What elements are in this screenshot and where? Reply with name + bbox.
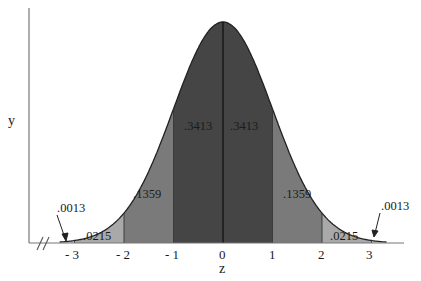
tick-label-3: 3 — [366, 247, 373, 262]
arrow-icon-left — [57, 215, 68, 241]
y-axis-label: y — [8, 113, 15, 128]
area-label-left-tail: .0013 — [57, 201, 85, 215]
area-label-m1-0: .3413 — [184, 119, 212, 133]
area-label-0-1: .3413 — [230, 119, 258, 133]
tick-label-0: 0 — [219, 247, 226, 262]
tick-label-m1: - 1 — [165, 247, 179, 262]
area-label-right-tail: .0013 — [381, 199, 409, 213]
area-label-m2-m1: .1359 — [133, 187, 161, 201]
tick-label-1: 1 — [269, 247, 276, 262]
area-label-m3-m2: .0215 — [83, 229, 111, 243]
tick-label-m2: - 2 — [116, 247, 130, 262]
arrow-icon-right — [372, 213, 380, 237]
tick-label-2: 2 — [318, 247, 325, 262]
x-axis-label: z — [219, 261, 225, 276]
region-dividers — [75, 22, 372, 243]
area-label-1-2: .1359 — [283, 187, 311, 201]
tick-label-m3: - 3 — [65, 247, 79, 262]
normal-distribution-chart: y z - 3 - 2 - 1 0 1 2 3 .0215 .1359 .341… — [0, 0, 421, 281]
area-label-2-3: .0215 — [330, 229, 358, 243]
